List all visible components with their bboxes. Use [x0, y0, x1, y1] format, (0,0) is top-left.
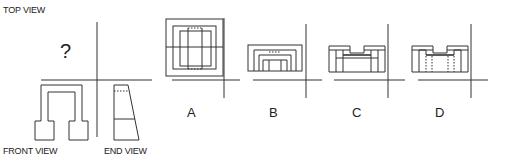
option-c-label[interactable]: C	[352, 105, 361, 120]
option-b-drawing[interactable]	[248, 24, 322, 98]
option-c-drawing[interactable]	[329, 24, 405, 98]
option-d-drawing[interactable]	[412, 24, 488, 98]
orthographic-drawing	[0, 0, 511, 161]
option-a-drawing[interactable]	[166, 18, 240, 98]
front-view	[35, 85, 88, 140]
option-d-label[interactable]: D	[435, 105, 444, 120]
option-a-label[interactable]: A	[187, 105, 196, 120]
option-b-label[interactable]: B	[269, 105, 278, 120]
end-view	[114, 85, 139, 140]
